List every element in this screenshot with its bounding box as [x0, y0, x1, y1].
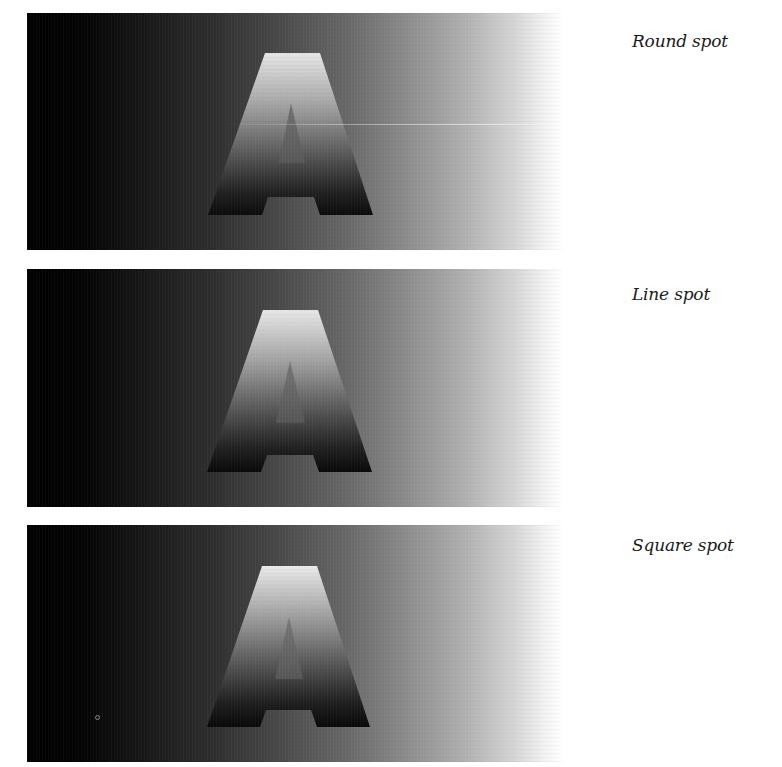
letter-a-graphic	[27, 525, 562, 762]
halftone-panel-line-spot	[27, 269, 562, 507]
halftone-panel-square-spot	[27, 525, 562, 762]
caption-line-spot: Line spot	[632, 284, 710, 304]
halftone-panel-round-spot	[27, 13, 562, 250]
letter-a-graphic	[27, 13, 562, 250]
scan-artifact-dot	[95, 715, 100, 720]
caption-round-spot: Round spot	[632, 31, 728, 51]
scan-streak	[227, 124, 562, 125]
letter-a-graphic	[27, 269, 562, 507]
caption-square-spot: Square spot	[632, 535, 734, 555]
